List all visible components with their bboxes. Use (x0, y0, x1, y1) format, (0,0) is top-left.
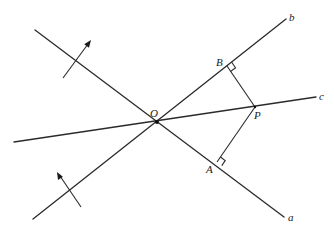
line-a (35, 30, 284, 217)
label-line-c: c (319, 90, 324, 102)
segment-pb (227, 66, 255, 107)
point-o-dot (155, 120, 159, 124)
label-p: P (253, 109, 261, 121)
arrow-icon-normal-a (63, 40, 91, 78)
right-angle-mark-a (220, 157, 225, 166)
label-line-a: a (288, 211, 294, 223)
point-p-dot (254, 106, 256, 108)
label-o: O (150, 107, 158, 119)
line-c (14, 97, 316, 142)
label-line-b: b (289, 11, 295, 23)
segment-pa (217, 107, 255, 162)
geometry-diagram: O B P A b c a (0, 0, 334, 233)
arrow-icon-normal-b (57, 172, 81, 207)
label-b-point: B (216, 56, 223, 68)
right-angle-mark-b (230, 62, 235, 71)
label-a-point: A (205, 163, 213, 175)
line-b (33, 19, 286, 219)
